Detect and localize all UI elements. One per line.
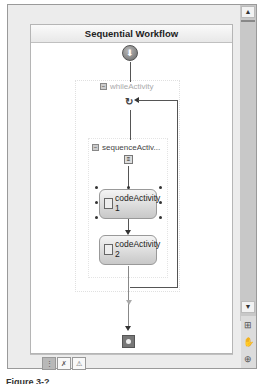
connector [130,110,131,140]
code-activity-icon [104,198,113,209]
end-icon [122,335,135,348]
pan-icon[interactable]: ✋ [241,334,255,350]
cancel-handler-view-tab[interactable]: ✗ [57,357,71,370]
connector [128,166,129,187]
zoom-in-icon[interactable]: ⊞ [241,317,255,333]
code-activity-label: codeActivity 2 [115,239,160,259]
zoom-tools: ⊞ ✋ ⊕ [241,316,256,368]
start-icon: ⬇ [122,45,138,61]
while-activity-label: whileActivity [110,82,154,91]
loop-connector [177,100,178,288]
vertical-scrollbar[interactable] [240,5,256,321]
resize-handle[interactable] [159,186,162,189]
scroll-down-button[interactable]: ▼ [241,301,255,313]
scroll-up-button[interactable]: ▲ [241,6,255,18]
sequence-icon: ≡ [124,155,133,164]
fault-handlers-view-tab[interactable]: ⚠ [72,357,86,370]
scroll-thumb[interactable] [241,20,255,22]
code-activity-1[interactable]: codeActivity 1 [99,189,157,219]
connector [130,62,131,82]
code-activity-label: codeActivity 1 [115,193,160,213]
arrow-down-icon [126,300,132,305]
resize-handle[interactable] [159,216,162,219]
collapse-icon[interactable]: − [100,83,107,90]
figure-caption: Figure 3-? [6,377,50,384]
while-activity-header: −whileActivity [100,82,154,91]
resize-handle[interactable] [95,186,98,189]
workflow-view-tab[interactable]: ⋮ [42,357,56,370]
loop-connector [138,100,178,101]
loop-icon: ↻ [125,96,133,107]
resize-handle[interactable] [95,201,98,204]
sequence-activity-header: −sequenceActiv... [92,143,160,152]
arrow-down-icon [125,326,131,331]
connector [128,266,129,326]
resize-handle[interactable] [95,216,98,219]
sequence-activity-label: sequenceActiv... [102,143,160,152]
loop-connector [130,287,178,288]
code-activity-2[interactable]: codeActivity 2 [99,235,157,265]
zoom-fit-icon[interactable]: ⊕ [241,351,255,367]
code-activity-icon [104,244,113,255]
workflow-title: Sequential Workflow [31,25,232,43]
collapse-icon[interactable]: − [92,144,99,151]
